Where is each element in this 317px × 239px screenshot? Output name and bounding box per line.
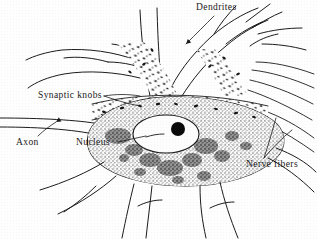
neuron-figure: Dendrites Synaptic knobs Axon Nucleus Ne… — [0, 0, 317, 239]
neuron-illustration — [0, 0, 317, 239]
nucleus-oval — [133, 115, 199, 153]
label-nucleus: Nucleus — [76, 138, 110, 148]
nucleolus — [171, 122, 185, 136]
label-axon: Axon — [16, 138, 39, 148]
label-dendrites: Dendrites — [196, 3, 237, 13]
label-nerve-fibers: Nerve fibers — [246, 160, 298, 170]
label-synaptic-knobs: Synaptic knobs — [38, 91, 102, 101]
